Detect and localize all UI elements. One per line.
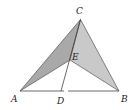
label-a: A: [10, 94, 18, 104]
geometry-diagram: C E A D B: [0, 0, 137, 110]
label-c: C: [76, 6, 83, 16]
label-e: E: [71, 52, 79, 62]
label-d: D: [56, 96, 64, 106]
label-b: B: [120, 94, 128, 104]
